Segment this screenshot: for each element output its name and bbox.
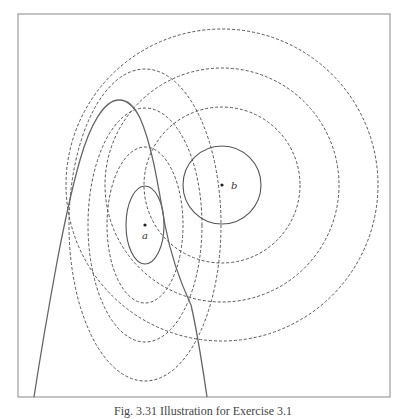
point-label-a: a [142, 230, 148, 241]
points: ab [142, 180, 237, 241]
figure-frame [18, 14, 390, 397]
boundary-curve [34, 100, 207, 397]
figure-caption: Fig. 3.31 Illustration for Exercise 3.1 [0, 404, 406, 419]
point-b [220, 183, 223, 186]
point-a [143, 223, 146, 226]
point-label-b: b [231, 180, 237, 191]
